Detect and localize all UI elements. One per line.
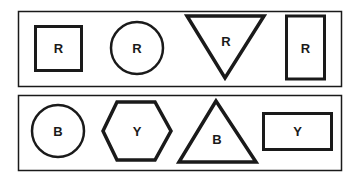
top-circle-shape: R [111, 22, 163, 74]
bottom-rectangle-label: Y [293, 124, 302, 139]
bottom-circle-label: B [53, 124, 62, 139]
shapes-diagram: R R R R B Y B Y [0, 0, 356, 178]
bottom-panel: B Y B Y [19, 96, 342, 171]
top-tall-rectangle-shape: R [287, 16, 325, 79]
top-panel-border [19, 12, 342, 87]
bottom-triangle-label: B [212, 132, 221, 147]
top-square-shape: R [36, 27, 82, 71]
top-circle-label: R [132, 41, 142, 56]
bottom-triangle-shape: B [179, 101, 256, 162]
top-triangle-label: R [221, 34, 231, 49]
bottom-wide-rectangle-shape: Y [264, 114, 332, 150]
bottom-circle-shape: B [32, 105, 84, 157]
bottom-hexagon-label: Y [133, 124, 142, 139]
top-inverted-triangle-shape: R [187, 16, 264, 78]
top-square-label: R [54, 41, 64, 56]
top-rectangle-label: R [301, 41, 311, 56]
top-panel: R R R R [19, 12, 342, 87]
bottom-hexagon-shape: Y [103, 102, 171, 160]
